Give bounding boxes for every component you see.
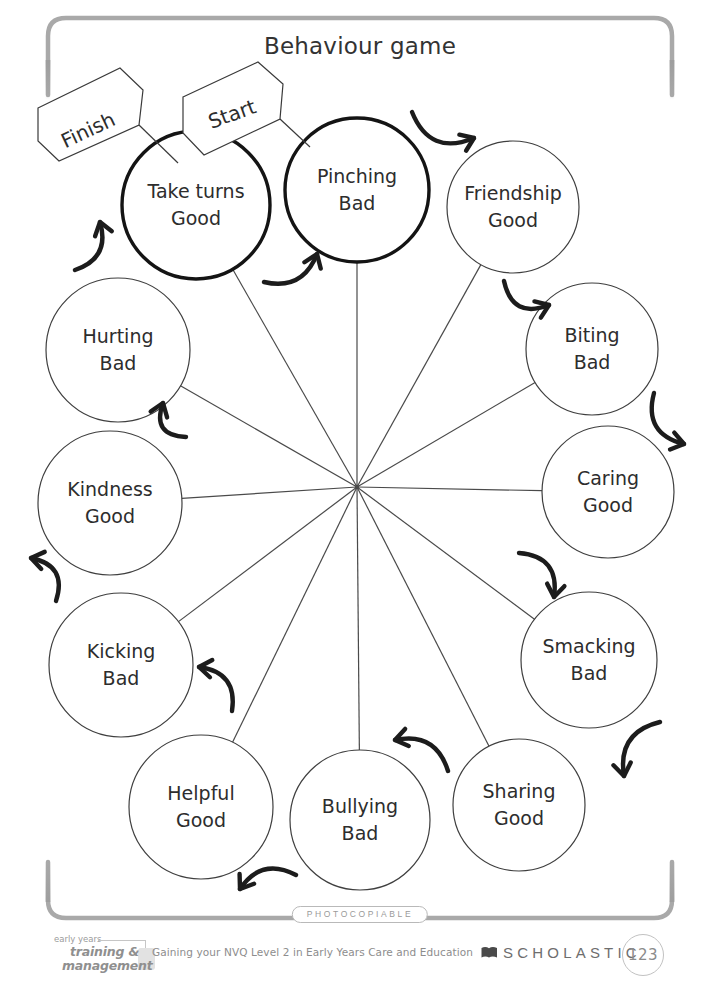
circle-kindness[interactable] [38,431,182,575]
page-number: 123 [622,934,664,976]
circle-pinching[interactable] [285,118,429,262]
start-flag-tail [280,119,310,147]
circle-friendship[interactable] [447,141,579,273]
behaviour-circles [38,118,674,890]
circle-helpful[interactable] [129,735,273,879]
logo-line-training: training & [70,944,139,959]
spoke-bullying [357,487,359,750]
worksheet-page: Behaviour game PinchingBadFriendshipGood… [0,0,720,1006]
circle-take-turns[interactable] [122,131,270,279]
circle-hurting[interactable] [46,278,190,422]
circle-bullying[interactable] [290,750,430,890]
arrow-pinching-to-friendship [412,112,474,143]
wheel-hub [355,485,359,489]
logo-line-management: management [62,958,153,973]
spoke-sharing [357,487,489,746]
scholastic-logo: SCHOLASTIC [481,944,641,961]
spoke-biting [357,382,535,487]
circle-kicking[interactable] [49,593,193,737]
spoke-hurting [180,386,357,487]
spoke-lines [178,262,542,750]
spoke-friendship [357,265,481,487]
spoke-helpful [233,487,357,742]
scholastic-wordmark: SCHOLASTIC [503,944,641,961]
logo-rule [98,940,146,941]
spoke-kicking [178,487,357,622]
spoke-caring [357,487,542,491]
early-years-logo: early years training & management [50,934,148,974]
spoke-smacking [357,487,534,619]
book-title: Gaining your NVQ Level 2 in Early Years … [152,946,473,958]
photocopiable-badge: PHOTOCOPIABLE [292,906,428,923]
circle-smacking[interactable] [521,592,657,728]
logo-line-top: early years [54,934,101,944]
spoke-take-turns [233,269,357,487]
page-footer: PHOTOCOPIABLE early years training & man… [0,930,720,1006]
spoke-kindness [182,487,357,498]
open-book-icon [481,946,498,959]
circle-sharing[interactable] [453,739,585,871]
behaviour-wheel [0,0,720,1006]
circle-caring[interactable] [542,426,674,558]
